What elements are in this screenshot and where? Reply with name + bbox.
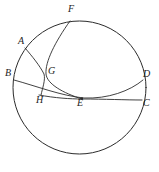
vertex-label-G: G bbox=[48, 66, 55, 76]
vertex-label-F: F bbox=[68, 4, 74, 14]
vertex-label-B: B bbox=[5, 68, 11, 78]
vertex-label-C: C bbox=[143, 98, 150, 108]
arc-F-G-E bbox=[46, 21, 82, 99]
vertex-label-D: D bbox=[143, 69, 150, 79]
geometry-canvas bbox=[0, 0, 159, 172]
main-circle bbox=[13, 21, 146, 154]
arc-H-E-C bbox=[39, 95, 142, 100]
vertex-label-H: H bbox=[36, 95, 43, 105]
vertex-label-E: E bbox=[77, 98, 83, 108]
geometry-figure: A B C D E F G H bbox=[0, 0, 159, 172]
arc-B-E-D bbox=[14, 80, 143, 98]
vertex-label-A: A bbox=[18, 36, 24, 46]
